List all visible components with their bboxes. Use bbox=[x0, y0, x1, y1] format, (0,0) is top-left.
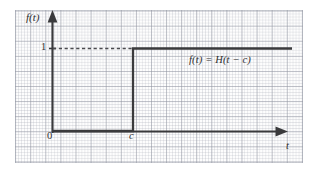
y-axis-label: f(t) bbox=[26, 12, 39, 23]
heaviside-step-function-figure: f(t) t 1 0 c f(t) = H(t − c) bbox=[0, 0, 314, 174]
step-function-curve bbox=[53, 49, 292, 132]
y-axis-arrow-icon bbox=[48, 10, 58, 23]
equation-annotation: f(t) = H(t − c) bbox=[189, 55, 251, 66]
x-axis-label: t bbox=[286, 141, 289, 152]
x-tick-label-c: c bbox=[129, 131, 134, 142]
y-tick-label-one: 1 bbox=[41, 42, 46, 53]
origin-label: 0 bbox=[47, 131, 52, 142]
x-axis-arrow-icon bbox=[276, 127, 289, 137]
plot-drawing bbox=[0, 0, 314, 174]
